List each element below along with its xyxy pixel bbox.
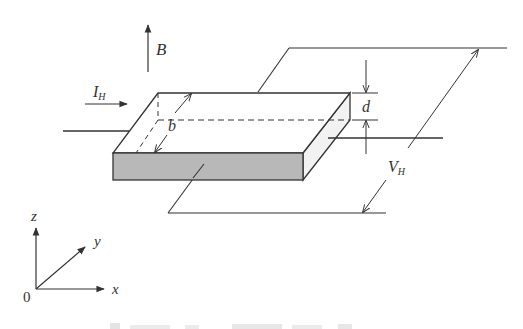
y-axis-label: y [92,233,101,249]
current-label: IH [92,83,106,102]
thickness-label: d [362,98,371,115]
z-axis-label: z [30,208,37,224]
origin-label: 0 [23,289,31,305]
hall-voltage-dimension [363,50,478,212]
x-axis-label: x [111,281,119,297]
y-axis [36,247,85,289]
hall-voltage-label: VH [388,158,406,177]
truncated-caption [110,323,352,329]
slab-front-face [113,153,303,180]
width-label: b [168,117,176,134]
hall-effect-diagram: B IH b d [0,0,523,329]
magnetic-field-label: B [156,40,167,59]
